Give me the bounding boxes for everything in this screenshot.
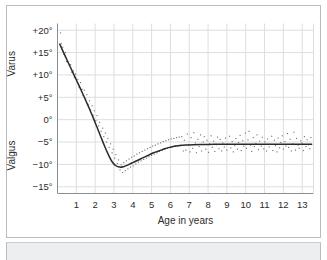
data-point [123,162,124,163]
data-point [211,135,212,136]
data-point [154,154,155,155]
data-point [220,139,221,140]
data-point [235,138,236,139]
data-point [136,154,137,155]
data-point [224,146,225,147]
data-point [119,169,120,170]
data-point [171,138,172,139]
data-point [151,155,152,156]
data-point [152,146,153,147]
data-point [237,149,238,150]
data-point [214,151,215,152]
data-point [253,137,254,138]
data-point [278,137,279,138]
data-point [288,147,289,148]
data-point [271,136,272,137]
data-point [290,139,291,140]
data-point [95,120,96,121]
data-point [258,149,259,150]
data-point [293,132,294,133]
data-point [128,159,129,160]
data-point [221,150,222,151]
data-point [299,148,300,149]
data-point [222,142,223,143]
data-point [274,140,275,141]
data-point [115,154,116,155]
figure-container: +20°+15°+10°+5°0°−5°−10°−15° 12345678910… [0,0,327,260]
data-point [121,164,122,165]
data-point [113,149,114,150]
data-point [70,64,71,65]
data-point [141,160,142,161]
data-point [165,140,166,141]
mean-curve-path [60,44,312,167]
data-point [133,165,134,166]
data-point [263,148,264,149]
data-point [280,142,281,143]
data-point [300,140,301,141]
x-tick-label: 11 [260,199,270,210]
data-point [117,163,118,164]
mean-curve-line [60,44,312,167]
data-point [138,162,139,163]
x-tick-label: 10 [240,199,251,210]
y-tick-label: +15° [33,47,53,58]
data-point [262,137,263,138]
data-point [256,134,257,135]
data-point [62,47,63,48]
data-point [305,146,306,147]
data-point [261,146,262,147]
x-tick-label: 9 [224,199,229,210]
data-point [99,122,100,123]
data-point [284,141,285,142]
data-point [295,150,296,151]
data-point [135,163,136,164]
data-point [98,125,99,126]
y-tick-label: −10° [33,159,53,170]
data-point [114,158,115,159]
data-point [94,110,95,111]
data-point [134,155,135,156]
vertical-gridlines [76,24,302,194]
data-point [204,136,205,137]
data-point [150,147,151,148]
data-point [127,168,128,169]
data-point [233,151,234,152]
data-point [143,159,144,160]
data-point [272,150,273,151]
data-point [126,160,127,161]
axis-lines [58,24,314,194]
data-point [279,147,280,148]
data-point [301,142,302,143]
data-point [213,141,214,142]
data-point [146,158,147,159]
x-tick-label: 7 [187,199,192,210]
data-point [191,137,192,138]
data-point [264,142,265,143]
data-point [195,142,196,143]
data-point [269,146,270,147]
data-point [96,115,97,116]
data-point [125,170,126,171]
data-point [243,146,244,147]
data-point [65,52,66,53]
data-point [110,143,111,144]
data-point [77,79,78,80]
data-point [205,149,206,150]
data-point [142,151,143,152]
data-point [218,148,219,149]
data-point [184,140,185,141]
x-tick-label: 6 [168,199,173,210]
data-point [103,136,104,137]
varus-axis-label: Varus [6,51,17,76]
horizontal-gridlines [58,30,314,187]
data-point [304,136,305,137]
data-point [193,132,194,133]
data-point [208,152,209,153]
y-tick-label: −5° [38,136,53,147]
data-point [238,142,239,143]
data-point [189,151,190,152]
data-point [185,150,186,151]
y-tick-label: +20° [33,25,53,36]
data-point [179,137,180,138]
